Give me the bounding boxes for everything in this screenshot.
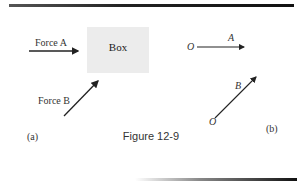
bottom-rule bbox=[135, 178, 297, 181]
origin-a-label: O bbox=[187, 41, 194, 52]
figure-caption: Figure 12-9 bbox=[0, 130, 302, 142]
figure-arrows bbox=[0, 0, 302, 181]
box-shape: Box bbox=[87, 27, 149, 73]
force-b-label: Force B bbox=[38, 95, 70, 106]
force-a-label: Force A bbox=[35, 37, 67, 48]
vector-b-label: B bbox=[235, 80, 241, 91]
box-label: Box bbox=[87, 41, 149, 53]
origin-b-label: O bbox=[209, 116, 216, 127]
vector-a-label: A bbox=[228, 32, 234, 43]
